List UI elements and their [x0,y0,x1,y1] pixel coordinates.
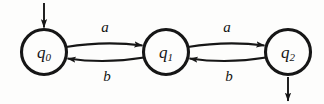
transition-q1-to-q2 [188,43,265,47]
transition-label-q0-q1-a: a [101,19,109,36]
state-subscript-q0: 0 [46,51,52,63]
automaton-figure: q0 q1 q2 a b a b [0,0,324,104]
state-subscript-q1: 1 [168,51,174,63]
state-label-q0: q0 [37,43,51,63]
transition-label-q2-q1-b: b [225,68,233,85]
transition-q1-to-q0 [68,58,145,62]
state-name-q1: q [159,43,168,62]
state-name-q0: q [37,43,46,62]
state-label-q2: q2 [281,43,295,63]
transition-label-q1-q0-b: b [103,68,111,85]
transition-q0-to-q1 [66,43,143,47]
state-subscript-q2: 2 [290,51,296,63]
transition-label-q1-q2-a: a [223,19,231,36]
state-label-q1: q1 [159,43,173,63]
state-name-q2: q [281,43,290,62]
transition-q2-to-q1 [190,58,267,62]
